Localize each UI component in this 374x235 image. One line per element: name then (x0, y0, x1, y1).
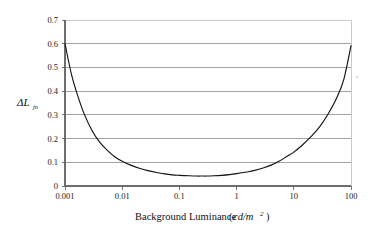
x-axis-title-paren-close: ) (266, 211, 270, 223)
y-tick-label: 0.3 (47, 110, 58, 120)
y-axis-title-subscript: jn (32, 103, 38, 110)
x-axis-title-exponent: 2 (260, 210, 264, 218)
y-tick-labels: 0 0.1 0.2 0.3 0.4 0.5 0.6 0.7 (47, 15, 58, 191)
y-tick-label: 0.6 (47, 39, 58, 49)
chart-figure: 0 0.1 0.2 0.3 0.4 0.5 0.6 0.7 0.001 0.01… (0, 0, 374, 235)
y-tick-label: 0.4 (47, 86, 58, 96)
x-axis-title: Background Luminance ( cd/m 2 ) (135, 210, 270, 223)
y-tick-label: 0.7 (47, 15, 58, 25)
x-tick-label: 0.01 (115, 191, 130, 201)
x-axis-title-text: Background Luminance (135, 211, 237, 222)
x-tick-label: 1 (234, 191, 238, 201)
plot-area-background (65, 20, 351, 186)
x-tick-labels: 0.001 0.01 0.1 1 10 100 (55, 191, 357, 201)
x-tick-label: 0.001 (55, 191, 74, 201)
y-tick-label: 0.2 (47, 134, 58, 144)
y-tick-label: 0 (54, 181, 58, 191)
x-axis-title-units: cd/m (233, 211, 254, 222)
x-tick-label: 100 (345, 191, 358, 201)
x-tick-label: 0.1 (174, 191, 185, 201)
y-tick-label: 0.1 (47, 157, 58, 167)
x-tick-label: 10 (290, 191, 299, 201)
y-axis-title: ΔL jn (16, 96, 38, 110)
y-tick-label: 0.5 (47, 62, 58, 72)
scan-speck (356, 76, 358, 78)
chart-svg: 0 0.1 0.2 0.3 0.4 0.5 0.6 0.7 0.001 0.01… (0, 0, 374, 235)
y-axis-title-main: ΔL (16, 96, 30, 108)
